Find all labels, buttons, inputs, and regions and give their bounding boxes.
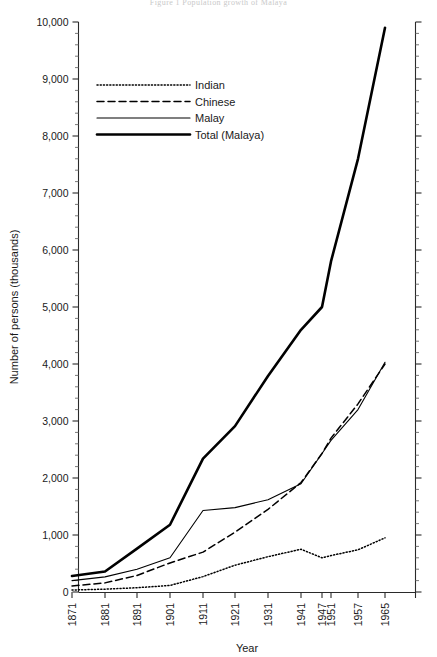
x-axis-title: Year bbox=[236, 642, 259, 654]
series-line-malay bbox=[72, 362, 385, 580]
y-tick-label: 1,000 bbox=[42, 529, 68, 541]
x-tick-label: 1911 bbox=[197, 603, 209, 626]
y-tick-label: 6,000 bbox=[42, 244, 68, 256]
series-line-total-malaya bbox=[72, 28, 385, 576]
series-line-indian bbox=[72, 538, 385, 590]
x-tick-label: 1957 bbox=[352, 603, 364, 627]
x-tick-label: 1891 bbox=[131, 603, 143, 627]
y-tick-label: 4,000 bbox=[42, 358, 68, 370]
data-series-group bbox=[72, 28, 385, 590]
legend-label: Malay bbox=[195, 112, 225, 124]
figure-caption: Figure 1 Population growth of Malaya bbox=[0, 0, 437, 7]
y-tick-label: 2,000 bbox=[42, 472, 68, 484]
right-axis bbox=[416, 22, 422, 592]
x-tick-label: 1871 bbox=[66, 603, 78, 627]
y-tick-label: 9,000 bbox=[42, 73, 68, 85]
legend-label: Indian bbox=[195, 79, 225, 91]
x-tick-label: 1921 bbox=[229, 603, 241, 627]
series-line-chinese bbox=[72, 364, 385, 586]
x-tick-label: 1951 bbox=[325, 603, 337, 627]
y-axis-ticks bbox=[73, 22, 79, 592]
population-growth-chart-figure: Figure 1 Population growth of Malaya 01,… bbox=[0, 0, 437, 657]
y-tick-label: 5,000 bbox=[42, 301, 68, 313]
x-axis-tick-labels: 1871188118911901191119211931194119471951… bbox=[66, 603, 391, 627]
chart-canvas: 01,0002,0003,0004,0005,0006,0007,0008,00… bbox=[0, 0, 437, 657]
y-tick-label: 7,000 bbox=[42, 187, 68, 199]
x-tick-label: 1901 bbox=[164, 603, 176, 627]
y-tick-label: 8,000 bbox=[42, 130, 68, 142]
y-tick-label: 0 bbox=[63, 586, 69, 598]
x-axis: 1871188118911901191119211931194119471951… bbox=[66, 592, 416, 654]
legend-label: Chinese bbox=[195, 96, 235, 108]
y-tick-label: 3,000 bbox=[42, 415, 68, 427]
y-axis-title: Number of persons (thousands) bbox=[8, 230, 20, 385]
right-axis-ticks bbox=[416, 22, 422, 592]
x-tick-label: 1965 bbox=[379, 603, 391, 627]
x-tick-label: 1881 bbox=[99, 603, 111, 627]
x-tick-label: 1931 bbox=[262, 603, 274, 627]
chart-legend: IndianChineseMalayTotal (Malaya) bbox=[97, 79, 264, 141]
y-tick-label: 10,000 bbox=[36, 16, 68, 28]
x-tick-label: 1941 bbox=[295, 603, 307, 627]
legend-label: Total (Malaya) bbox=[195, 129, 264, 141]
y-axis: 01,0002,0003,0004,0005,0006,0007,0008,00… bbox=[8, 16, 79, 598]
y-axis-tick-labels: 01,0002,0003,0004,0005,0006,0007,0008,00… bbox=[36, 16, 68, 598]
